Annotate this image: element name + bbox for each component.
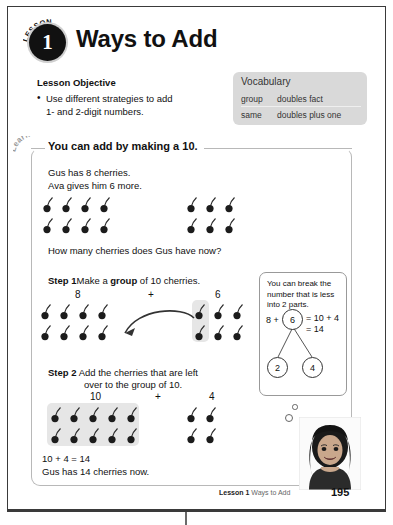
cherry-icon [224,217,237,233]
page-title: Ways to Add [76,25,217,53]
step2-plus: + [155,391,161,402]
cherry-icon [205,427,218,443]
callout-eq-line-1: = 10 + 4 [306,313,339,324]
move-arrow-icon [120,300,200,342]
cherry-icon [186,427,199,443]
step1-cherry-group-six [194,303,251,345]
page-number: 195 [331,486,349,498]
cherry-icon [107,427,120,443]
cherry-icon [42,196,55,212]
step2-cherry-group-ten [50,406,145,448]
vocabulary-row: same doubles plus one [241,107,361,123]
callout-equation-left: 8 + [266,315,279,325]
svg-text:Learn: Learn [13,136,31,153]
step2-text: Step 2 Add the cherries that are left ov… [48,367,238,391]
cherry-icon [232,324,245,340]
cherry-icon [213,324,226,340]
step2-left-count: 10 [90,391,101,402]
answer-sentence: Gus has 14 cherries now. [42,465,149,478]
step1-left-count: 8 [75,289,81,300]
callout-text: You can break the number that is less in… [267,279,343,311]
callout-line-1: You can break the [267,279,343,290]
story-text: Gus has 8 cherries. Ava gives him 6 more… [48,166,142,192]
cherry-icon [126,427,139,443]
cherry-icon [59,324,72,340]
step1-right-count: 6 [215,289,221,300]
vocabulary-rows: group doubles fact same doubles plus one [241,91,361,123]
learn-title: You can add by making a 10. [48,140,198,152]
step2-line-1: Add the cherries that are left [79,367,198,378]
lesson-badge: LESSON 1 [27,20,68,61]
cherry-icon [107,406,120,422]
learn-top-border-right [204,148,352,149]
vocabulary-term: doubles plus one [277,110,361,120]
question-text: How many cherries does Gus have now? [48,245,221,256]
cherry-group-eight [42,196,118,238]
cherry-icon [50,406,63,422]
cherry-icon [42,217,55,233]
cherry-icon [40,303,53,319]
cherry-icon [88,427,101,443]
vocabulary-term: group [241,94,277,104]
cherry-icon [69,406,82,422]
cherry-icon [88,406,101,422]
objective-heading: Lesson Objective [37,77,116,88]
cherry-icon [99,196,112,212]
story-line-2: Ava gives him 6 more. [48,179,142,192]
badge-number: 1 [27,24,68,61]
step1-text-b: of 10 cherries. [137,275,200,286]
cherry-icon [97,324,110,340]
vocabulary-row: group doubles fact [241,91,361,107]
number-bond-part-left: 2 [267,357,288,378]
step2-cherry-group-four [186,406,224,448]
step1-text-bold: group [110,275,137,286]
cherry-icon [50,427,63,443]
step2-line-2: over to the group of 10. [48,379,238,391]
speech-bubble-large-icon [285,414,293,422]
cherry-icon [224,196,237,212]
cherry-icon [61,196,74,212]
cherry-icon [213,303,226,319]
vocabulary-term: same [241,110,277,120]
number-bond-whole: 6 [282,309,303,330]
footer: Lesson 1 Ways to Add [219,489,290,496]
objective-bullet-line2: 1- and 2-digit numbers. [37,105,227,118]
cherry-icon [69,427,82,443]
vocabulary-title: Vocabulary [241,76,290,87]
callout-line-2: number that is less [267,290,343,301]
cherry-icon [232,303,245,319]
number-bond-part-right: 4 [302,357,323,378]
footer-lesson-label: Lesson 1 [219,489,249,496]
speech-bubble-small-icon [292,404,298,410]
vocabulary-term: doubles fact [277,94,361,104]
cherry-icon [205,217,218,233]
step1-text: Step 1Make a group of 10 cherries. [48,275,200,286]
cherry-icon [61,217,74,233]
cherry-icon [97,303,110,319]
step2-label: Step 2 [48,367,77,378]
step1-text-a: Make a [77,275,111,286]
cherry-group-six [186,196,243,238]
cherry-icon [80,217,93,233]
cherry-icon [59,303,72,319]
step1-plus: + [148,289,154,300]
cherry-icon [126,406,139,422]
student-photo [299,417,361,490]
answer-text: 10 + 4 = 14 Gus has 14 cherries now. [42,452,149,478]
cherry-icon [186,406,199,422]
vocabulary-box: Vocabulary group doubles fact same doubl… [233,72,367,125]
footer-lesson-title: Ways to Add [251,489,290,496]
textbook-page: LESSON 1 Ways to Add Lesson Objective Us… [0,0,393,525]
learn-top-border-left [31,148,45,149]
cherry-icon [186,196,199,212]
gutter-mark [185,512,187,525]
cherry-icon [205,196,218,212]
cherry-icon [80,196,93,212]
cherry-icon [40,324,53,340]
objective-bullet: Use different strategies to add [37,92,227,105]
bottom-rule [7,510,386,512]
objective-list: Use different strategies to add 1- and 2… [37,92,227,118]
cherry-icon [205,406,218,422]
cherry-icon [99,217,112,233]
callout-box: You can break the number that is less in… [259,272,347,396]
